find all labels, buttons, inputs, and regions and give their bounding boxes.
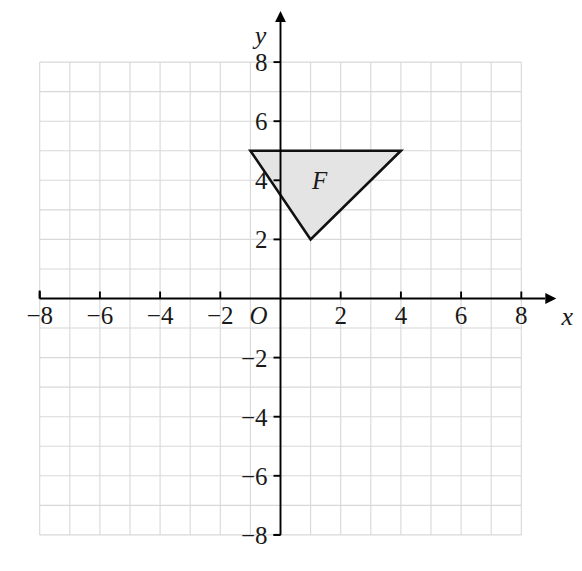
y-tick-label: −6 bbox=[241, 463, 268, 490]
coordinate-plane-figure: −8−6−4−22468−8−6−4−22468 OxyF bbox=[0, 0, 582, 571]
x-tick-label: −4 bbox=[147, 302, 174, 329]
y-tick-label: −2 bbox=[241, 345, 268, 372]
x-tick-label: −6 bbox=[87, 302, 114, 329]
y-tick-label: 6 bbox=[255, 108, 268, 135]
shape-layer bbox=[250, 151, 401, 240]
y-tick-label: 2 bbox=[255, 226, 268, 253]
y-tick-label: −8 bbox=[241, 522, 268, 549]
coordinate-plane-svg: −8−6−4−22468−8−6−4−22468 OxyF bbox=[0, 0, 582, 571]
x-tick-label: −8 bbox=[26, 302, 53, 329]
x-tick-label: 6 bbox=[455, 302, 468, 329]
x-axis-label: x bbox=[561, 302, 574, 331]
y-axis-arrowhead bbox=[275, 11, 286, 22]
shape-label-f: F bbox=[311, 167, 328, 194]
shape-f bbox=[250, 151, 401, 240]
y-tick-label: 4 bbox=[255, 167, 268, 194]
x-axis-arrowhead bbox=[545, 293, 556, 304]
x-tick-label: 2 bbox=[334, 302, 347, 329]
x-tick-label: 4 bbox=[395, 302, 408, 329]
y-tick-label: 8 bbox=[255, 49, 268, 76]
origin-label: O bbox=[249, 302, 267, 329]
x-tick-label: 8 bbox=[515, 302, 528, 329]
x-tick-label: −2 bbox=[207, 302, 234, 329]
y-tick-label: −4 bbox=[241, 404, 268, 431]
y-axis-label: y bbox=[252, 21, 267, 50]
axis-layer bbox=[40, 11, 557, 535]
